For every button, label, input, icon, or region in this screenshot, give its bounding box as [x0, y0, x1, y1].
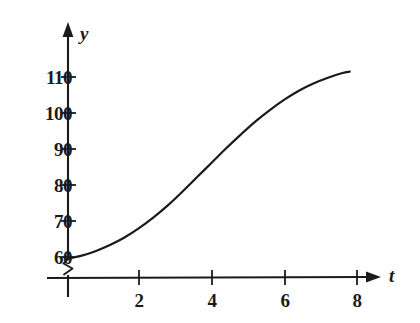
y-tick-label-110: 110	[46, 68, 72, 87]
y-axis-arrow-icon	[63, 22, 74, 37]
x-axis-label: t	[389, 266, 394, 285]
graph-figure: 110 100 90 80 70 60 2 4 6 8 y t	[0, 0, 420, 323]
x-axis-arrow-icon	[366, 272, 381, 283]
plot-area	[0, 0, 420, 323]
data-curve	[66, 72, 349, 259]
x-tick-label-2: 2	[135, 291, 144, 310]
y-tick-label-90: 90	[54, 140, 72, 159]
x-axis-line	[47, 277, 368, 278]
y-tick-label-100: 100	[45, 104, 72, 123]
x-tick-label-6: 6	[281, 291, 290, 310]
x-tick-label-8: 8	[353, 291, 362, 310]
x-tick-label-4: 4	[208, 291, 217, 310]
y-tick-label-70: 70	[54, 212, 72, 231]
y-axis-label: y	[80, 24, 88, 43]
y-tick-label-80: 80	[54, 176, 72, 195]
y-tick-label-60: 60	[54, 248, 72, 267]
